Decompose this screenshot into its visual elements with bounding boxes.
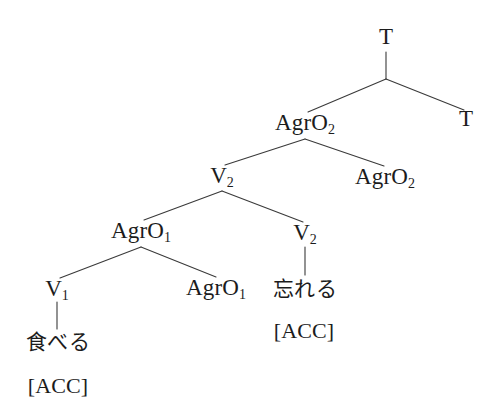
node-v1-label: V <box>45 276 62 301</box>
branch-t-to-agro2 <box>308 79 386 112</box>
syntax-tree-figure: T T AgrO2 AgrO2 V2 AgrO1 AgrO1 V2 V1 食べる… <box>0 0 497 411</box>
node-v2-upper: V2 <box>210 164 234 190</box>
node-v2-lower: V2 <box>293 221 317 247</box>
node-agro1: AgrO1 <box>111 219 171 245</box>
node-trace-agro1: AgrO1 <box>186 276 246 302</box>
node-trace-agro2: AgrO2 <box>355 165 415 191</box>
node-root-t-label: T <box>379 24 393 49</box>
feature-wasureru-acc: [ACC] <box>274 320 334 342</box>
node-agro1-label: AgrO <box>111 218 164 243</box>
node-agro1-subscript: 1 <box>164 230 171 245</box>
node-v2-upper-subscript: 2 <box>227 175 234 190</box>
branch-agro1-to-v1 <box>60 247 141 278</box>
terminal-taberu: 食べる <box>26 332 89 353</box>
node-v2-lower-label: V <box>293 220 310 245</box>
node-trace-agro1-label: AgrO <box>186 275 239 300</box>
node-v2-lower-subscript: 2 <box>310 232 317 247</box>
node-trace-agro2-label: AgrO <box>355 164 408 189</box>
branch-v2-to-agro1 <box>144 191 222 220</box>
branch-v2-to-v2lower <box>222 191 303 222</box>
terminal-wasureru: 忘れる <box>273 279 336 300</box>
branch-agro1-to-trace-agro1 <box>141 247 216 277</box>
feature-taberu-acc: [ACC] <box>28 375 88 397</box>
node-agro2-label: AgrO <box>275 110 328 135</box>
branch-agro2-to-v2 <box>225 139 305 165</box>
node-trace-agro2-subscript: 2 <box>408 176 415 191</box>
node-trace-agro1-subscript: 1 <box>239 287 246 302</box>
node-agro2: AgrO2 <box>275 111 335 137</box>
branch-agro2-to-trace-agro2 <box>305 139 384 166</box>
branch-t-to-trace-t <box>386 79 464 110</box>
node-agro2-subscript: 2 <box>328 122 335 137</box>
node-v2-upper-label: V <box>210 163 227 188</box>
node-trace-t: T <box>459 107 473 133</box>
node-v1-subscript: 1 <box>62 288 69 303</box>
node-v1: V1 <box>45 277 69 303</box>
node-trace-t-label: T <box>459 106 473 131</box>
node-root-t: T <box>379 25 393 51</box>
